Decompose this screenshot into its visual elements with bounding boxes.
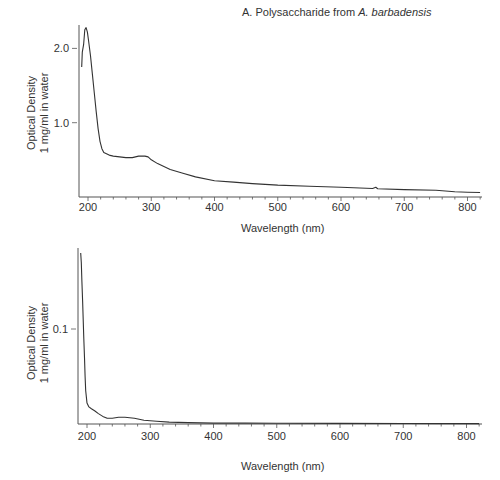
x-tick-label: 300 <box>141 430 159 442</box>
data-series-line <box>82 28 480 193</box>
y-axis-label: Optical Density 1 mg/ml in water <box>25 293 51 393</box>
x-tick-label: 600 <box>331 430 349 442</box>
y-label-line1: Optical Density <box>25 293 38 393</box>
chart-bottom-blank: 2003004005006007008000.1 Optical Density… <box>0 240 500 480</box>
x-tick-label: 300 <box>142 201 160 213</box>
y-axis-label: Optical Density 1 mg/ml in water <box>25 63 51 163</box>
x-axis-label: Wavelength (nm) <box>241 460 324 472</box>
y-label-line2: 1 mg/ml in water <box>38 63 51 163</box>
x-tick-label: 500 <box>268 430 286 442</box>
x-tick-label: 200 <box>79 201 97 213</box>
x-tick-label: 800 <box>458 201 476 213</box>
chart-top-polysaccharide: A. Polysaccharide from A. barbadensis 20… <box>0 0 500 240</box>
x-tick-label: 500 <box>269 201 287 213</box>
x-tick-label: 400 <box>204 430 222 442</box>
x-tick-label: 400 <box>205 201 223 213</box>
y-tick-label: 1.0 <box>54 117 69 129</box>
data-series-line <box>81 253 479 424</box>
y-tick-label: 0.1 <box>53 323 68 335</box>
x-tick-label: 700 <box>394 430 412 442</box>
x-tick-label: 700 <box>395 201 413 213</box>
x-axis-label: Wavelength (nm) <box>241 222 324 234</box>
y-label-line2: 1 mg/ml in water <box>38 293 51 393</box>
x-tick-label: 600 <box>332 201 350 213</box>
y-label-line1: Optical Density <box>25 63 38 163</box>
y-tick-label: 2.0 <box>54 42 69 54</box>
plot-area: 2003004005006007008001.02.0 <box>0 0 500 240</box>
x-tick-label: 800 <box>457 430 475 442</box>
plot-area: 2003004005006007008000.1 <box>0 240 500 480</box>
x-tick-label: 200 <box>78 430 96 442</box>
